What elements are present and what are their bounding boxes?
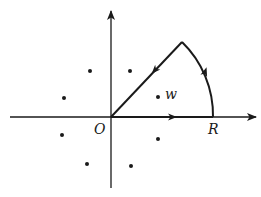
point	[60, 133, 64, 137]
points	[60, 69, 160, 168]
point-w	[156, 95, 160, 99]
radius-label: R	[207, 121, 219, 137]
point	[128, 69, 132, 73]
point	[85, 162, 89, 166]
point	[62, 96, 66, 100]
contour-arc	[182, 42, 213, 117]
complex-plane-diagram: O R w	[0, 0, 261, 197]
point	[129, 164, 133, 168]
point-w-label: w	[165, 86, 177, 102]
sector-contour	[111, 42, 213, 117]
point	[156, 137, 160, 141]
point	[88, 69, 92, 73]
contour-ray-segment	[111, 42, 182, 117]
origin-label: O	[94, 121, 106, 137]
